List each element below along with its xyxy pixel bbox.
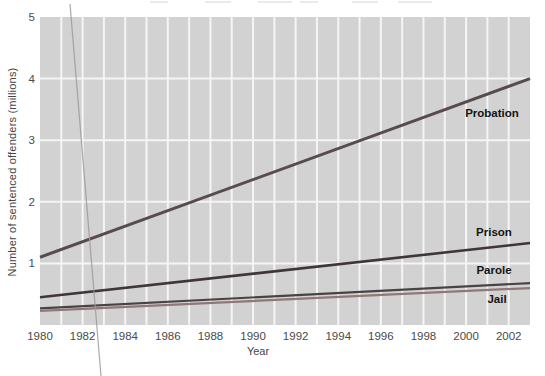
x-tick-label: 1984 — [112, 330, 138, 342]
line-chart-sentenced-offenders: 1234519801982198419861988199019921994199… — [0, 0, 545, 376]
cropped-caption-remnant — [258, 1, 292, 3]
x-tick-label: 1992 — [283, 330, 309, 342]
series-label-prison: Prison — [476, 226, 512, 238]
x-tick-label: 1980 — [27, 330, 53, 342]
series-label-jail: Jail — [487, 293, 506, 305]
series-label-parole: Parole — [476, 264, 511, 276]
x-tick-label: 1994 — [325, 330, 351, 342]
cropped-caption-remnant — [150, 1, 168, 3]
chart-canvas: 1234519801982198419861988199019921994199… — [0, 0, 545, 376]
x-axis-title: Year — [208, 345, 308, 357]
x-tick-label: 1988 — [198, 330, 224, 342]
x-tick-label: 1998 — [411, 330, 437, 342]
x-tick-label: 1990 — [240, 330, 266, 342]
y-tick-label: 2 — [29, 196, 35, 208]
cropped-caption-remnant — [205, 1, 231, 3]
y-tick-label: 4 — [29, 73, 36, 85]
cropped-caption-remnant — [398, 1, 432, 3]
x-tick-label: 1986 — [155, 330, 181, 342]
x-tick-label: 1996 — [368, 330, 394, 342]
y-tick-label: 5 — [29, 11, 35, 23]
cropped-caption-remnant — [300, 1, 318, 3]
series-label-probation: Probation — [465, 107, 519, 119]
y-tick-label: 3 — [29, 134, 35, 146]
y-tick-label: 1 — [29, 257, 35, 269]
x-tick-label: 2002 — [496, 330, 522, 342]
cropped-caption-remnant — [352, 1, 378, 3]
plot-area — [40, 17, 530, 325]
x-tick-label: 2000 — [453, 330, 479, 342]
y-axis-title: Number of sentenced offenders (millions) — [6, 22, 20, 322]
x-tick-label: 1982 — [70, 330, 96, 342]
